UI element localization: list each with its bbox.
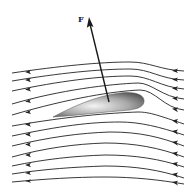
airfoil — [53, 93, 144, 117]
streamline — [12, 155, 184, 167]
arrow-left-icon — [25, 179, 31, 183]
streamline — [12, 166, 184, 178]
streamline — [12, 62, 184, 73]
diagram-canvas — [0, 0, 194, 194]
force-label: F — [78, 14, 84, 24]
streamline — [12, 76, 184, 91]
arrow-left-icon — [172, 173, 178, 178]
streamline — [12, 122, 184, 136]
streamline — [12, 112, 184, 126]
streamline — [12, 132, 184, 146]
streamline — [12, 69, 184, 81]
streamlines-below — [12, 112, 184, 184]
streamline — [12, 177, 184, 184]
arrow-left-icon — [172, 130, 178, 135]
airfoil-flow-diagram: F — [0, 0, 194, 194]
lift-force-vector — [87, 17, 109, 102]
